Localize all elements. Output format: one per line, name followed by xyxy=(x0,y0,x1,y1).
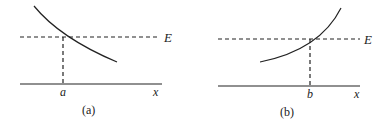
caption-a: (a) xyxy=(82,103,95,117)
panel-b: E b x (b) xyxy=(218,8,372,119)
point-label-b: b xyxy=(307,87,313,101)
point-label-a: a xyxy=(60,85,66,99)
axis-label-b: x xyxy=(353,87,360,101)
potential-curve-a xyxy=(34,6,117,62)
energy-label-b: E xyxy=(363,32,372,47)
diagram: E a x (a) E b x (b) xyxy=(0,0,387,128)
potential-curve-b xyxy=(260,8,341,62)
energy-label-a: E xyxy=(163,30,172,45)
panel-a: E a x (a) xyxy=(20,6,172,117)
caption-b: (b) xyxy=(280,105,294,119)
axis-label-a: x xyxy=(152,85,159,99)
